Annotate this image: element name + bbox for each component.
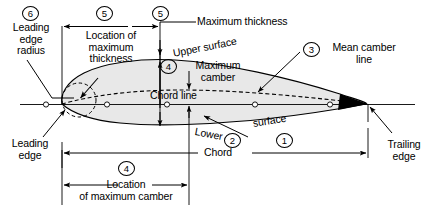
- leading-edge-leader: [43, 110, 65, 137]
- location-max-camber-label: Location of maximum camber: [60, 179, 192, 202]
- callout-5-location-badge: 5: [96, 6, 113, 21]
- callout-5-thickness-badge: 5: [152, 6, 169, 21]
- leading-edge-label: Leading edge: [2, 138, 58, 161]
- chord-line-label: Chord line: [150, 90, 197, 102]
- callout-1-badge: 1: [276, 133, 293, 148]
- mean-camber-line-label: Mean camber line: [324, 42, 404, 65]
- location-max-thickness-label: Location of maximum thickness: [64, 30, 158, 65]
- maximum-thickness-label: Maximum thickness: [197, 16, 288, 28]
- trailing-edge-label: Trailing edge: [379, 139, 429, 162]
- airfoil-diagram: 6 Leading edge radius 5 Location of maxi…: [0, 0, 430, 212]
- callout-3-badge: 3: [303, 42, 320, 57]
- callout-4-camber-badge: 4: [160, 59, 177, 74]
- trailing-edge-leader: [368, 104, 392, 133]
- maximum-camber-label: Maximum camber: [180, 60, 256, 83]
- leading-edge-radius-label: Leading edge radius: [2, 22, 60, 57]
- callout-6-badge: 6: [22, 6, 39, 21]
- callout-4-location-badge: 4: [118, 161, 135, 176]
- chord-label: Chord: [204, 147, 232, 159]
